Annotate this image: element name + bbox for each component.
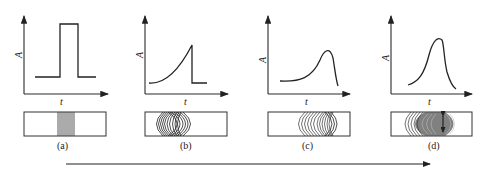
y-axis-label-c: A (257, 56, 268, 64)
axes-c (268, 16, 350, 94)
panel-label-b: (b) (180, 140, 192, 152)
band-c (268, 112, 350, 136)
band-lines-a (58, 112, 74, 136)
band-b (145, 112, 227, 136)
panel-a: A t (a) (13, 16, 108, 152)
panel-label-a: (a) (57, 140, 68, 152)
x-axis-label-c: t (305, 96, 308, 107)
panel-label-d: (d) (428, 140, 440, 152)
y-axis-label-b: A (134, 51, 145, 59)
x-axis-label-d: t (428, 96, 431, 107)
panel-label-c: (c) (302, 140, 313, 152)
axes-d (391, 16, 472, 94)
x-axis-label-a: t (60, 96, 63, 107)
curve-c (280, 51, 338, 86)
curve-a (35, 24, 96, 77)
panel-c: A t (c) (257, 16, 350, 152)
curve-d (408, 39, 456, 89)
y-axis-label-a: A (13, 51, 24, 59)
peak-evolution-diagram: A t (a) A t (0, 0, 483, 176)
y-axis-label-d: A (380, 54, 391, 62)
panel-b: A t (b) (134, 16, 228, 152)
panel-d: A t (d) (380, 16, 472, 152)
x-axis-label-b: t (184, 96, 187, 107)
curve-b (149, 45, 207, 83)
axes-a (24, 16, 108, 94)
band-a (24, 112, 106, 136)
